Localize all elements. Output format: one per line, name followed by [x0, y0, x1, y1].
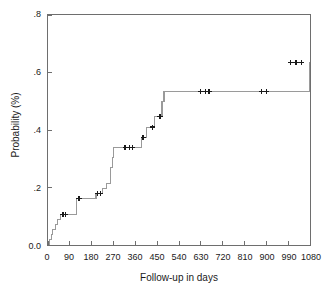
- censor-mark: [259, 89, 264, 94]
- x-axis-title: Follow-up in days: [47, 272, 311, 284]
- x-tick-label: 270: [105, 252, 120, 262]
- x-tick-label: 180: [83, 252, 98, 262]
- censor-mark: [130, 145, 135, 150]
- x-axis-tick-labels: 0901802703604505406307208109009901080: [0, 252, 334, 266]
- y-tick-label: 0.0: [28, 242, 41, 251]
- kaplan-meier-figure: 0.0.2.4.6.8 0901802703604505406307208109…: [0, 0, 334, 294]
- y-tick-label: .4: [33, 126, 41, 135]
- y-tick-label: .8: [33, 10, 41, 19]
- censor-mark: [76, 196, 81, 201]
- x-tick-label: 900: [259, 252, 274, 262]
- survival-step-line: [48, 62, 310, 245]
- x-tick-label: 990: [281, 252, 296, 262]
- x-tick-label: 360: [127, 252, 142, 262]
- y-axis-title: Probability (%): [10, 55, 22, 195]
- x-tick-label: 1080: [301, 252, 321, 262]
- censor-mark: [299, 60, 304, 65]
- x-tick-label: 630: [193, 252, 208, 262]
- x-tick-label: 540: [171, 252, 186, 262]
- plot-svg: [48, 15, 310, 245]
- x-tick-label: 0: [44, 252, 49, 262]
- x-tick-label: 90: [64, 252, 74, 262]
- x-tick-label: 450: [149, 252, 164, 262]
- censor-mark: [264, 89, 269, 94]
- x-tick-label: 810: [237, 252, 252, 262]
- y-tick-label: .6: [33, 68, 41, 77]
- censor-mark: [150, 125, 155, 130]
- censor-mark: [293, 60, 298, 65]
- plot-area: [47, 14, 311, 246]
- censor-marks-group: [60, 60, 303, 218]
- x-tick-label: 720: [215, 252, 230, 262]
- censor-mark: [207, 89, 212, 94]
- y-tick-label: .2: [33, 184, 41, 193]
- censor-mark: [288, 60, 293, 65]
